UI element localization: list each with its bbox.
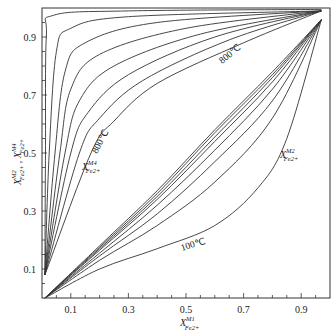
m2-800c-label: 800℃ [217, 42, 243, 65]
svg-text:XM2Fe2+ , XM4Fe2+: XM2Fe2+ , XM4Fe2+ [10, 139, 25, 186]
x-tick-label: 0.5 [180, 304, 193, 315]
x-tick-label: 0.7 [237, 304, 250, 315]
curve-m4-2 [45, 11, 322, 275]
m4-series-label: XM4Fe2+ [81, 159, 100, 174]
m2-100c-label: 100℃ [180, 236, 207, 253]
x-tick-label: 0.1 [65, 304, 78, 315]
y-tick-label: 0.3 [24, 206, 37, 217]
curve-m4-5 [45, 11, 322, 275]
m4-800c-label: 800℃ [90, 128, 111, 155]
curve-m4-4 [45, 11, 322, 275]
curve-m4-7 [45, 11, 322, 275]
curve-m4-3 [45, 11, 322, 275]
y-tick-label: 0.7 [24, 90, 37, 101]
curve-m4-6 [45, 11, 322, 275]
y-axis-title: XM2Fe2+ , XM4Fe2+ [10, 139, 25, 186]
y-tick-label: 0.1 [24, 264, 37, 275]
svg-text:XM2Fe2+: XM2Fe2+ [279, 147, 298, 162]
svg-text:XM4Fe2+: XM4Fe2+ [81, 159, 100, 174]
x-tick-label: 0.3 [122, 304, 135, 315]
curve-m4-1 [45, 9, 322, 274]
y-tick-label: 0.5 [24, 148, 37, 159]
curve-m4-8-800- [45, 11, 322, 275]
x-axis-title: XM1Fe2+ [179, 315, 199, 331]
svg-text:XM1Fe2+: XM1Fe2+ [179, 315, 199, 331]
y-tick-label: 0.9 [24, 32, 37, 43]
chart: 0.10.30.50.70.90.10.30.50.70.9 800℃ 800℃… [0, 0, 334, 336]
x-tick-label: 0.9 [295, 304, 308, 315]
m2-series-label: XM2Fe2+ [279, 147, 298, 162]
